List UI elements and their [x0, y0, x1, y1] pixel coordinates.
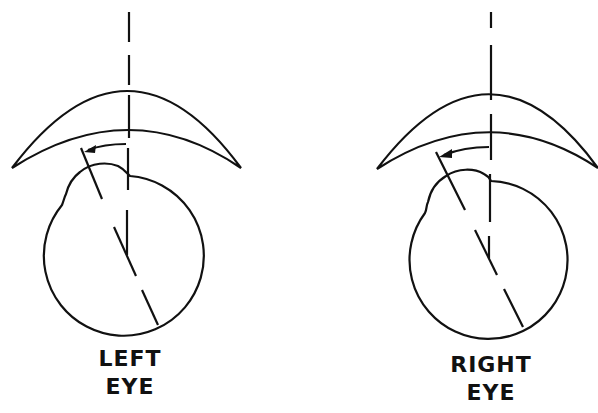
left-eye-panel — [12, 12, 241, 336]
right-eye-label: RIGHT EYE — [443, 351, 539, 407]
left-lens — [12, 91, 241, 168]
left-tilted-axis — [114, 227, 158, 325]
left-eye-label-line2: EYE — [90, 373, 170, 401]
left-arrowhead-icon — [84, 145, 96, 153]
right-lens — [377, 94, 598, 169]
right-eye-label-line2: EYE — [443, 379, 539, 407]
left-eye-label: LEFT EYE — [90, 345, 170, 401]
left-eye-label-line1: LEFT — [90, 345, 170, 373]
right-vertical-axis — [489, 12, 491, 258]
right-arrowhead-icon — [439, 149, 452, 158]
left-tilted-line — [81, 148, 102, 199]
left-vertical-axis — [127, 12, 129, 255]
right-eye-panel — [377, 12, 598, 339]
right-tilted-axis — [475, 230, 523, 327]
right-eye-label-line1: RIGHT — [443, 351, 539, 379]
